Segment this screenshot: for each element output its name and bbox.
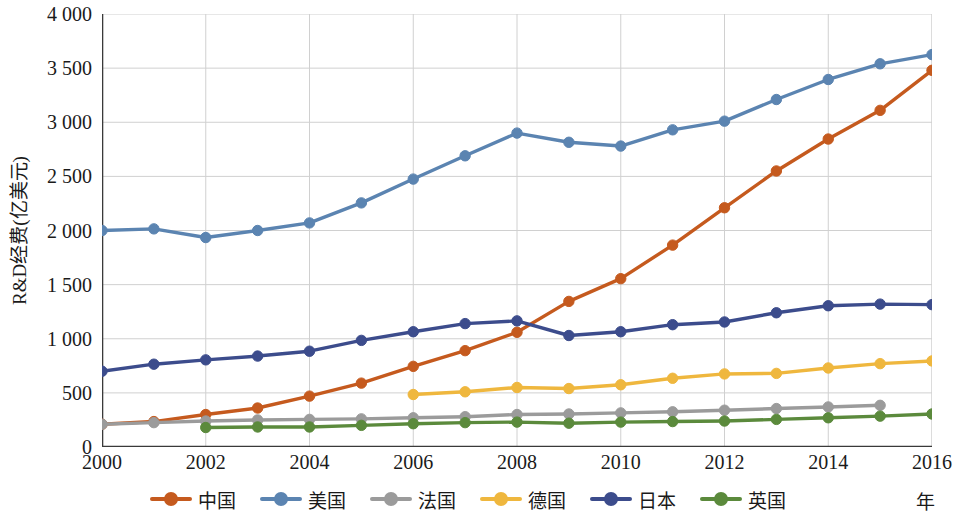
x-tick-label: 2002 (166, 452, 246, 472)
data-point (408, 361, 418, 371)
x-tick-label: 2000 (62, 452, 142, 472)
plot-svg (102, 14, 932, 447)
data-point (667, 407, 677, 417)
data-point (460, 417, 470, 427)
data-point (408, 327, 418, 337)
y-tick-label: 3 500 (6, 58, 92, 78)
data-point (201, 355, 211, 365)
x-tick-label: 2008 (477, 452, 557, 472)
line-marker-icon (480, 492, 522, 506)
legend-item[interactable]: 日本 (590, 486, 676, 513)
data-point (771, 308, 781, 318)
x-tick-label: 2010 (581, 452, 661, 472)
data-point (875, 358, 885, 368)
data-point (356, 198, 366, 208)
data-point (408, 174, 418, 184)
data-point (771, 94, 781, 104)
data-point (771, 403, 781, 413)
line-marker-icon (260, 492, 302, 506)
data-point (616, 141, 626, 151)
data-point (356, 378, 366, 388)
legend-item-label: 法国 (416, 486, 456, 513)
data-point (512, 382, 522, 392)
data-point (304, 346, 314, 356)
y-tick-label: 3 000 (6, 112, 92, 132)
data-point (616, 273, 626, 283)
data-point (875, 59, 885, 69)
data-point (201, 232, 211, 242)
data-point (667, 240, 677, 250)
y-tick-label: 1 500 (6, 275, 92, 295)
data-point (460, 318, 470, 328)
line-marker-icon (590, 492, 632, 506)
data-point (771, 368, 781, 378)
data-point (356, 335, 366, 345)
legend-item[interactable]: 德国 (480, 486, 566, 513)
y-tick-label: 500 (6, 383, 92, 403)
data-point (408, 419, 418, 429)
data-point (102, 366, 107, 376)
legend-item-label: 中国 (196, 486, 236, 513)
data-point (304, 391, 314, 401)
data-point (149, 417, 159, 427)
legend-item[interactable]: 中国 (150, 486, 236, 513)
data-point (252, 422, 262, 432)
data-point (823, 402, 833, 412)
data-point (564, 383, 574, 393)
data-point (564, 418, 574, 428)
rd-expenditure-line-chart: R&D经费(亿美元) 05001 0001 5002 0002 5003 000… (0, 0, 956, 513)
data-point (512, 417, 522, 427)
data-point (356, 420, 366, 430)
data-point (927, 299, 932, 309)
chart-legend: 中国美国法国德国日本英国 (150, 486, 890, 512)
data-point (616, 380, 626, 390)
data-point (719, 405, 729, 415)
data-point (512, 316, 522, 326)
series-法国 (102, 400, 885, 429)
data-point (564, 137, 574, 147)
data-point (667, 319, 677, 329)
legend-item[interactable]: 英国 (700, 486, 786, 513)
x-tick-label: 2012 (685, 452, 765, 472)
line-marker-icon (150, 492, 192, 506)
data-point (875, 400, 885, 410)
data-point (408, 389, 418, 399)
data-point (616, 417, 626, 427)
line-marker-icon (370, 492, 412, 506)
data-point (823, 413, 833, 423)
data-point (927, 409, 932, 419)
legend-item[interactable]: 美国 (260, 486, 346, 513)
data-point (564, 330, 574, 340)
x-axis-title: 年 (916, 487, 935, 513)
data-point (823, 363, 833, 373)
data-point (667, 416, 677, 426)
data-point (460, 151, 470, 161)
legend-item[interactable]: 法国 (370, 486, 456, 513)
x-tick-label: 2004 (270, 452, 350, 472)
data-point (252, 351, 262, 361)
data-point (460, 345, 470, 355)
data-point (875, 299, 885, 309)
data-point (823, 74, 833, 84)
data-point (719, 116, 729, 126)
data-point (719, 416, 729, 426)
y-tick-label: 4 000 (6, 4, 92, 24)
legend-item-label: 德国 (526, 486, 566, 513)
data-point (460, 387, 470, 397)
data-point (667, 373, 677, 383)
data-point (201, 422, 211, 432)
data-point (102, 225, 107, 235)
y-tick-label: 2 500 (6, 166, 92, 186)
x-tick-label: 2016 (892, 452, 956, 472)
data-point (149, 224, 159, 234)
legend-item-label: 英国 (746, 486, 786, 513)
data-point (252, 225, 262, 235)
data-point (149, 359, 159, 369)
data-point (512, 128, 522, 138)
data-point (304, 218, 314, 228)
data-point (823, 301, 833, 311)
data-point (667, 125, 677, 135)
y-tick-label: 2 000 (6, 221, 92, 241)
data-point (771, 414, 781, 424)
x-tick-label: 2006 (373, 452, 453, 472)
